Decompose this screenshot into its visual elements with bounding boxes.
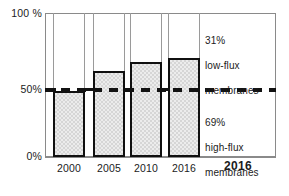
bar-2000 — [53, 91, 85, 157]
annotation-high-flux-line2: membranes — [205, 167, 259, 180]
annotation-low-flux: 31% low-flux membranes — [205, 22, 259, 110]
y-axis-tick-50: 50% — [20, 84, 42, 95]
bar-2005 — [93, 71, 125, 157]
y-axis-tick-0: 0% — [26, 151, 42, 162]
bar-2016 — [168, 58, 200, 157]
bar-2010 — [130, 62, 162, 157]
annotation-low-flux-percent: 31% — [205, 35, 259, 48]
annotation-low-flux-line2: membranes — [205, 85, 259, 98]
annotation-high-flux: 69% high-flux membranes — [205, 104, 259, 192]
annotation-high-flux-line1: high-flux — [205, 142, 259, 155]
y-axis-tick-100: 100 % — [11, 8, 42, 19]
annotation-high-flux-percent: 69% — [205, 117, 259, 130]
bar-chart: 100 % 50% 0% 2000 2005 2010 2016 2016 31… — [0, 0, 289, 196]
x-axis-tick-2000: 2000 — [47, 162, 91, 175]
x-axis-tick-2016: 2016 — [162, 162, 206, 175]
annotation-low-flux-line1: low-flux — [205, 60, 259, 73]
